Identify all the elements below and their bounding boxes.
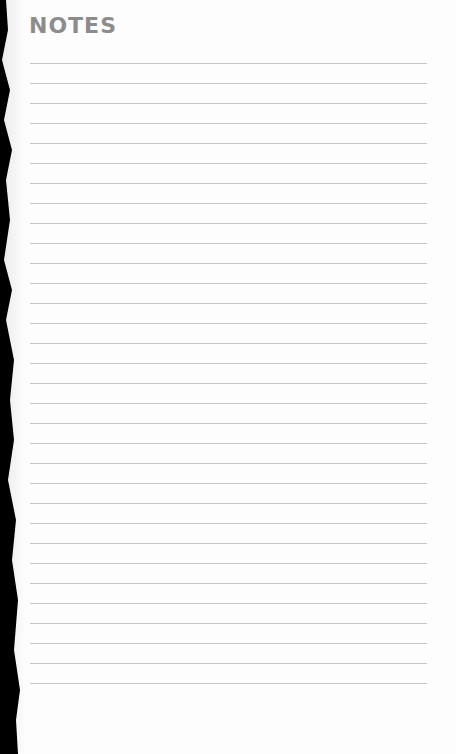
ruled-line [30,443,427,444]
ruled-line [30,563,427,564]
ruled-line [30,643,427,644]
ruled-line [30,503,427,504]
ruled-line [30,623,427,624]
ruled-line [30,263,427,264]
ruled-line [30,603,427,604]
ruled-line [30,463,427,464]
ruled-line [30,383,427,384]
ruled-line [30,363,427,364]
ruled-line [30,483,427,484]
ruled-line [30,423,427,424]
ruled-line [30,543,427,544]
ruled-line [30,303,427,304]
ruled-line [30,123,427,124]
ruled-line [30,323,427,324]
ruled-line [30,103,427,104]
ruled-line [30,403,427,404]
ruled-line [30,243,427,244]
ruled-line [30,223,427,224]
torn-edge-shadow [0,0,26,754]
ruled-lines [30,63,427,703]
ruled-line [30,283,427,284]
ruled-line [30,63,427,64]
ruled-line [30,183,427,184]
ruled-line [30,683,427,684]
ruled-line [30,83,427,84]
ruled-line [30,163,427,164]
notes-paper: NOTES [0,0,456,754]
ruled-line [30,343,427,344]
ruled-line [30,143,427,144]
ruled-line [30,203,427,204]
ruled-line [30,663,427,664]
ruled-line [30,523,427,524]
page-title: NOTES [29,13,117,38]
ruled-line [30,583,427,584]
